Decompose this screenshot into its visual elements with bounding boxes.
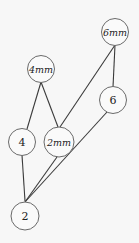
- edge-6-2: [25, 112, 107, 202]
- node-6: 6: [100, 87, 127, 114]
- edge-6mm-2mm: [60, 45, 115, 127]
- node-label: 2: [22, 210, 29, 223]
- node-label: 2mm: [46, 137, 71, 148]
- node-2: 2: [11, 202, 39, 230]
- node-label: 6: [110, 94, 117, 107]
- edge-2mm-2: [25, 157, 57, 202]
- node-4: 4: [9, 129, 36, 156]
- node-label: 4mm: [28, 64, 53, 75]
- node-4mm: 4mm: [28, 56, 55, 83]
- group-subgroup-diagram: 6mm 4mm 6 4 2mm 2: [0, 0, 139, 243]
- node-label: 4: [19, 136, 26, 149]
- edge-4-2: [22, 155, 25, 201]
- node-label: 6mm: [103, 27, 127, 38]
- edge-6mm-6: [113, 45, 115, 87]
- node-6mm: 6mm: [102, 19, 129, 46]
- edge-4mm-2mm: [41, 82, 58, 127]
- edge-4mm-4: [27, 82, 41, 129]
- node-2mm: 2mm: [44, 127, 74, 157]
